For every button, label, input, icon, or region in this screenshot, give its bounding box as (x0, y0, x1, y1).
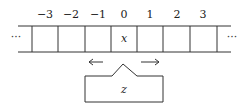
index-label: 1 (147, 8, 154, 21)
tape-diagram: −3 −2 −1 0 1 2 3 ··· ··· x z (0, 0, 249, 109)
left-ellipsis: ··· (11, 31, 22, 44)
index-label: 3 (200, 8, 207, 21)
cell-symbol: x (121, 32, 128, 45)
index-label: −3 (37, 8, 53, 21)
right-arrow-icon (141, 59, 159, 65)
move-arrows (89, 59, 159, 65)
index-label: −1 (90, 8, 106, 21)
index-label: 2 (174, 8, 181, 21)
left-arrow-icon (89, 59, 103, 65)
index-label: −2 (63, 8, 79, 21)
head-state-label: z (120, 83, 127, 96)
right-ellipsis: ··· (227, 31, 238, 44)
index-label: 0 (121, 8, 128, 21)
